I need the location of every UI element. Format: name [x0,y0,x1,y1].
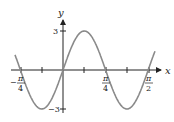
y-axis-label: y [57,7,64,18]
x-tick-label-neg-pi-over-4: − π 4 [10,74,25,93]
svg-text:−: − [10,78,17,87]
svg-text:π: π [102,74,109,83]
svg-text:4: 4 [103,84,108,93]
svg-text:4: 4 [18,84,23,93]
y-tick-label-3: 3 [53,27,58,36]
sine-graph: y x 3 −3 − π 4 π 4 π 2 [0,0,174,122]
svg-text:2: 2 [146,84,151,93]
y-tick-label-neg3: −3 [48,105,60,114]
x-axis-label: x [165,65,171,76]
svg-text:π: π [145,74,152,83]
svg-text:π: π [17,74,24,83]
x-tick-label-pi-over-2: π 2 [145,74,153,93]
